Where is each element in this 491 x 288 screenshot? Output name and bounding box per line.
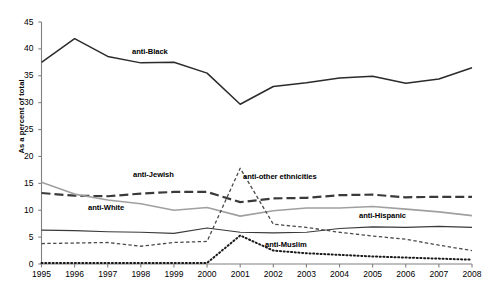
series-label-anti-hispanic: anti-Hispanic — [359, 211, 406, 220]
series-label-anti-black: anti-Black — [132, 47, 168, 56]
series-label-anti-white: anti-White — [88, 203, 124, 212]
y-tick-label: 30 — [8, 98, 34, 107]
x-tick-label: 2008 — [452, 270, 491, 279]
series-line-anti-muslim — [42, 236, 473, 263]
y-tick-label: 0 — [8, 260, 34, 269]
series-label-anti-jewish: anti-Jewish — [133, 170, 174, 179]
y-tick-label: 15 — [8, 179, 34, 188]
y-tick-label: 5 — [8, 233, 34, 242]
y-tick-label: 45 — [8, 18, 34, 27]
plot-area — [0, 0, 491, 288]
series-label-anti-other-ethnicities: anti-other ethnicities — [243, 172, 317, 181]
y-tick-label: 10 — [8, 206, 34, 215]
y-tick-label: 35 — [8, 71, 34, 80]
chart-container: As a percent of total 051015202530354045… — [0, 0, 491, 288]
series-line-anti-hispanic — [42, 226, 473, 233]
y-tick-label: 25 — [8, 125, 34, 134]
y-tick-label: 20 — [8, 152, 34, 161]
series-label-anti-muslim: anti-Muslim — [265, 240, 307, 249]
series-line-anti-black — [42, 39, 473, 105]
y-tick-label: 40 — [8, 44, 34, 53]
